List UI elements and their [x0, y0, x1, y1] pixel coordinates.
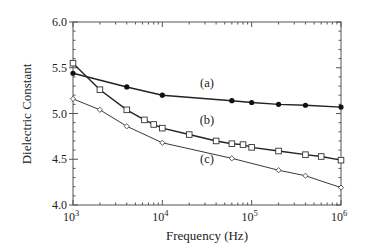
- data-point-filled-circle: [249, 100, 254, 105]
- data-point-open-square: [276, 148, 282, 154]
- y-tick-label: 5.0: [52, 107, 67, 121]
- data-point-open-square: [70, 60, 76, 66]
- data-point-open-square: [124, 107, 130, 113]
- data-point-open-square: [318, 154, 324, 160]
- data-point-open-diamond: [303, 173, 308, 178]
- data-point-open-square: [249, 145, 255, 151]
- data-point-filled-circle: [303, 103, 308, 108]
- data-point-open-square: [303, 152, 309, 158]
- y-tick-label: 4.5: [52, 152, 67, 166]
- x-tick-label: 106: [331, 208, 347, 224]
- data-point-open-diamond: [70, 96, 75, 101]
- data-point-open-diamond: [160, 140, 165, 145]
- y-tick-label: 5.5: [52, 61, 67, 75]
- data-point-filled-circle: [338, 104, 343, 109]
- x-axis-title: Frequency (Hz): [166, 228, 248, 243]
- data-point-open-square: [229, 141, 235, 147]
- x-tick-label: 103: [63, 208, 79, 224]
- data-point-open-square: [151, 122, 157, 128]
- data-point-open-square: [160, 125, 166, 131]
- data-point-open-square: [213, 138, 219, 144]
- series-label: (a): [200, 76, 214, 90]
- data-point-open-diamond: [276, 168, 281, 173]
- series-label: (c): [200, 152, 214, 166]
- series-group: (a)(b)(c): [70, 60, 344, 190]
- data-point-open-diamond: [97, 107, 102, 112]
- data-point-filled-circle: [124, 84, 129, 89]
- data-point-open-diamond: [338, 185, 343, 190]
- x-tick-label: 104: [152, 208, 169, 224]
- y-axis-title: Dielectric Constant: [19, 63, 34, 164]
- series-label: (b): [200, 113, 215, 127]
- data-point-open-diamond: [229, 156, 234, 161]
- y-tick-label: 6.0: [52, 15, 67, 29]
- data-point-open-square: [142, 117, 148, 123]
- data-point-open-square: [97, 87, 103, 93]
- dielectric-chart: 4.04.55.05.56.0 103104105106 (a)(b)(c) D…: [0, 0, 366, 251]
- series-a: (a): [70, 71, 343, 110]
- x-tick-label: 105: [242, 208, 258, 224]
- series-c: (c): [70, 96, 343, 190]
- data-point-filled-circle: [229, 98, 234, 103]
- y-axis: 4.04.55.05.56.0: [52, 15, 341, 212]
- data-point-open-square: [240, 142, 246, 148]
- data-point-open-square: [338, 157, 344, 163]
- data-point-filled-circle: [276, 102, 281, 107]
- data-point-open-diamond: [124, 124, 129, 129]
- data-point-filled-circle: [160, 93, 165, 98]
- data-point-open-square: [186, 132, 192, 138]
- data-point-filled-circle: [70, 71, 75, 76]
